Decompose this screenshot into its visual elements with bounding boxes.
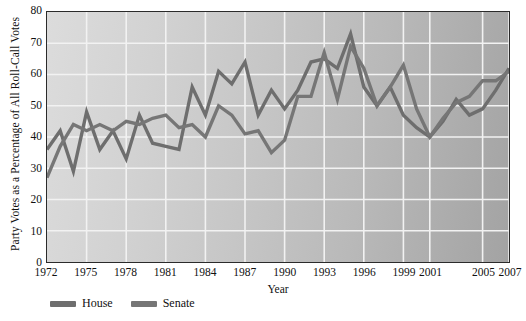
x-tick-label: 2007 <box>490 267 526 279</box>
x-tick-label: 1972 <box>26 267 66 279</box>
legend-swatch-icon <box>131 301 157 307</box>
y-tick-label: 20 <box>8 194 42 206</box>
legend-item: House <box>50 296 113 311</box>
x-tick-label: 1975 <box>66 267 106 279</box>
x-tick-label: 1996 <box>344 267 384 279</box>
x-tick-label: 1984 <box>185 267 225 279</box>
x-tick-label: 2001 <box>410 267 450 279</box>
legend-item: Senate <box>131 296 195 311</box>
chart-legend: HouseSenate <box>46 296 510 311</box>
legend-label: Senate <box>163 296 195 311</box>
x-tick-label: 1987 <box>225 267 265 279</box>
x-axis-title: Year <box>46 283 510 295</box>
x-tick-label: 1981 <box>145 267 185 279</box>
y-tick-label: 80 <box>8 5 42 17</box>
data-lines <box>47 12 509 262</box>
legend-label: House <box>82 296 113 311</box>
y-tick-label: 40 <box>8 131 42 143</box>
x-tick-label: 1990 <box>265 267 305 279</box>
y-tick-label: 50 <box>8 100 42 112</box>
y-tick-label: 30 <box>8 163 42 175</box>
y-tick-label: 60 <box>8 68 42 80</box>
y-tick-label: 10 <box>8 226 42 238</box>
x-tick-label: 1978 <box>106 267 146 279</box>
legend-swatch-icon <box>50 301 76 307</box>
plot-area <box>46 11 510 263</box>
y-tick-label: 70 <box>8 37 42 49</box>
x-tick-label: 1993 <box>304 267 344 279</box>
